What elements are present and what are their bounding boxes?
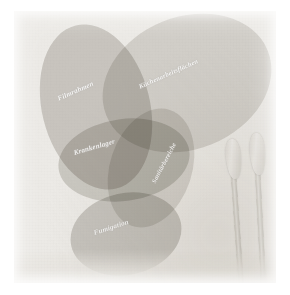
cotton-swab-group: [212, 133, 274, 283]
photo-plate: Filmrahmen Küchenarbeitsflächen Krankenl…: [14, 11, 276, 283]
swab-head: [249, 133, 267, 176]
screenshot-canvas: Filmrahmen Küchenarbeitsflächen Krankenl…: [0, 0, 290, 295]
swab-stick: [231, 175, 245, 283]
swab-head: [224, 138, 242, 179]
swab-stick: [255, 170, 267, 283]
